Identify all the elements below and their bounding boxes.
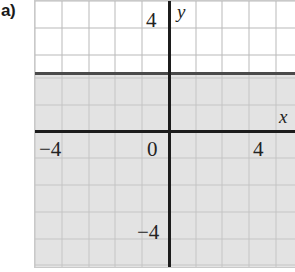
frame-edge-left xyxy=(34,0,35,268)
y-axis-line xyxy=(168,0,171,268)
boundary-line xyxy=(34,72,295,75)
coordinate-graph: 4 −4 −4 0 4 y x xyxy=(34,0,295,268)
y-tick-label-negative-4: −4 xyxy=(137,222,159,243)
x-tick-label-4: 4 xyxy=(253,139,264,160)
x-tick-label-0: 0 xyxy=(147,139,158,160)
x-axis-line xyxy=(34,130,295,133)
y-axis-label: y xyxy=(177,2,185,21)
y-tick-label-4: 4 xyxy=(146,10,157,31)
x-tick-label-negative-4: −4 xyxy=(39,139,61,160)
grid-lines-over-shading xyxy=(34,74,295,268)
part-label: a) xyxy=(1,1,15,21)
frame-edge-top xyxy=(34,0,295,1)
frame-edge-bottom xyxy=(34,267,295,268)
x-axis-label: x xyxy=(279,107,287,126)
